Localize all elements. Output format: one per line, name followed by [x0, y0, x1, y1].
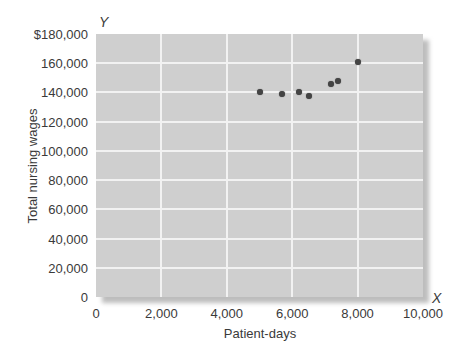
x-tick-label: 0: [92, 306, 99, 321]
data-point: [335, 78, 341, 84]
data-point: [296, 89, 302, 95]
gridline-horizontal: [96, 179, 423, 181]
y-tick-label: 140,000: [41, 85, 88, 100]
y-axis-letter: Y: [99, 14, 108, 30]
data-point: [306, 93, 312, 99]
y-tick-label: 0: [81, 290, 88, 305]
x-tick-label: 6,000: [276, 306, 309, 321]
gridline-vertical: [291, 34, 293, 297]
data-point: [257, 89, 263, 95]
data-point: [279, 91, 285, 97]
y-tick-label: 120,000: [41, 114, 88, 129]
x-axis-label: Patient-days: [224, 326, 296, 341]
x-tick-label: 2,000: [145, 306, 178, 321]
y-tick-label: 160,000: [41, 56, 88, 71]
y-tick-label: 100,000: [41, 143, 88, 158]
gridline-horizontal: [96, 121, 423, 123]
x-axis-letter: X: [432, 290, 441, 306]
y-tick-label: 40,000: [48, 231, 88, 246]
gridline-horizontal: [96, 62, 423, 64]
data-point: [328, 81, 334, 87]
y-axis-label: Total nursing wages: [25, 109, 40, 224]
gridline-horizontal: [96, 267, 423, 269]
gridline-horizontal: [96, 150, 423, 152]
y-tick-label: 20,000: [48, 260, 88, 275]
gridline-vertical: [160, 34, 162, 297]
x-tick-label: 8,000: [341, 306, 374, 321]
x-tick-label: 10,000: [403, 306, 443, 321]
data-point: [355, 59, 361, 65]
gridline-vertical: [226, 34, 228, 297]
gridline-horizontal: [96, 238, 423, 240]
y-tick-label: $180,000: [34, 27, 88, 42]
gridline-vertical: [357, 34, 359, 297]
y-tick-label: 80,000: [48, 173, 88, 188]
gridline-horizontal: [96, 208, 423, 210]
plot-area: [96, 34, 423, 297]
y-tick-label: 60,000: [48, 202, 88, 217]
x-tick-label: 4,000: [211, 306, 244, 321]
